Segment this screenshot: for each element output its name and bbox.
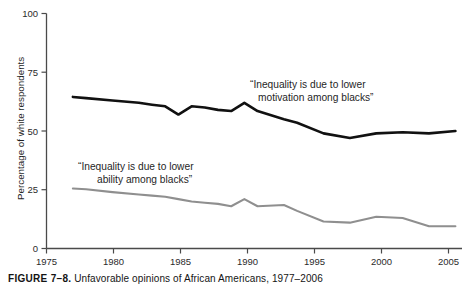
y-tick-marks — [42, 14, 47, 249]
x-tick-label-2005: 2005 — [438, 256, 459, 267]
y-tick-label-75: 75 — [27, 67, 38, 78]
chart-plot: 0 25 50 75 100 1975 1980 1985 1990 1995 … — [0, 0, 470, 270]
y-axis-title: Percentage of white respondents — [15, 57, 26, 200]
series-line-ability — [73, 189, 456, 227]
y-tick-label-0: 0 — [33, 243, 38, 254]
y-tick-label-50: 50 — [27, 126, 38, 137]
figure-container: 0 25 50 75 100 1975 1980 1985 1990 1995 … — [0, 0, 470, 295]
figure-caption-label: FIGURE 7–8. — [8, 273, 71, 284]
x-tick-marks — [47, 249, 449, 254]
y-tick-label-25: 25 — [27, 184, 38, 195]
x-tick-label-1980: 1980 — [103, 256, 124, 267]
annotation-ability-line1: “Inequality is due to lower — [78, 161, 194, 172]
annotation-motivation-line2: motivation among blacks” — [258, 92, 374, 103]
annotation-ability: “Inequality is due to lower ability amon… — [78, 161, 194, 185]
annotation-ability-line2: ability among blacks” — [97, 174, 193, 185]
y-tick-label-100: 100 — [22, 8, 38, 19]
series-line-motivation — [73, 97, 456, 138]
figure-caption: FIGURE 7–8. Unfavorable opinions of Afri… — [8, 272, 463, 285]
figure-caption-text: Unfavorable opinions of African American… — [74, 273, 323, 284]
x-tick-label-1995: 1995 — [304, 256, 325, 267]
annotation-motivation-line1: “Inequality is due to lower — [250, 79, 366, 90]
annotation-motivation: “Inequality is due to lower motivation a… — [250, 79, 374, 103]
x-tick-label-2000: 2000 — [371, 256, 392, 267]
x-tick-label-1975: 1975 — [36, 256, 57, 267]
x-tick-label-1985: 1985 — [170, 256, 191, 267]
x-tick-label-1990: 1990 — [237, 256, 258, 267]
x-tick-labels: 1975 1980 1985 1990 1995 2000 2005 — [36, 256, 459, 267]
